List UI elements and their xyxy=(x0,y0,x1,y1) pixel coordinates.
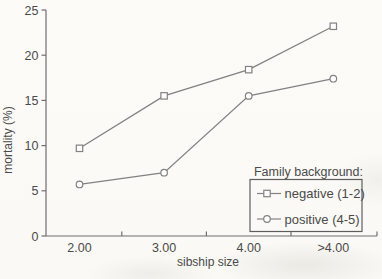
legend-entries: negative (1-2)positive (4-5) xyxy=(257,186,365,227)
data-point-marker-circle xyxy=(161,169,168,176)
data-point-marker-circle xyxy=(264,216,271,223)
data-point-marker-square xyxy=(264,190,270,196)
data-point-marker-circle xyxy=(245,93,252,100)
x-tick-label: >4.00 xyxy=(317,241,349,255)
y-tick-label: 5 xyxy=(32,184,39,198)
series-line-negative-1-2- xyxy=(80,26,334,148)
y-tick-label: 0 xyxy=(32,230,39,244)
axes xyxy=(42,10,378,236)
legend-entry-label: positive (4-5) xyxy=(285,212,360,227)
data-point-marker-circle xyxy=(330,75,337,82)
y-tick-label: 20 xyxy=(25,49,39,63)
data-point-marker-square xyxy=(246,66,252,72)
x-axis-title: sibship size xyxy=(177,255,239,269)
legend-entry: negative (1-2) xyxy=(257,186,365,201)
chart-figure: 05101520252.003.004.00>4.00 mortality (%… xyxy=(0,0,382,279)
mortality-vs-sibship-size-chart: 05101520252.003.004.00>4.00 mortality (%… xyxy=(0,0,382,279)
data-point-marker-square xyxy=(330,23,336,29)
x-tick-label: 3.00 xyxy=(152,241,176,255)
legend: Family background: negative (1-2)positiv… xyxy=(250,165,365,232)
y-tick-label: 10 xyxy=(25,139,39,153)
series-lines xyxy=(76,23,336,188)
legend-entry-label: negative (1-2) xyxy=(285,186,365,201)
data-point-marker-square xyxy=(161,93,167,99)
data-point-marker-circle xyxy=(76,181,83,188)
y-tick-label: 25 xyxy=(25,4,39,18)
x-tick-label: 4.00 xyxy=(237,241,261,255)
x-tick-label: 2.00 xyxy=(67,241,91,255)
y-tick-label: 15 xyxy=(25,94,39,108)
legend-entry: positive (4-5) xyxy=(257,212,360,227)
data-point-marker-square xyxy=(76,145,82,151)
y-axis-title: mortality (%) xyxy=(1,106,15,173)
legend-title: Family background: xyxy=(254,165,363,179)
